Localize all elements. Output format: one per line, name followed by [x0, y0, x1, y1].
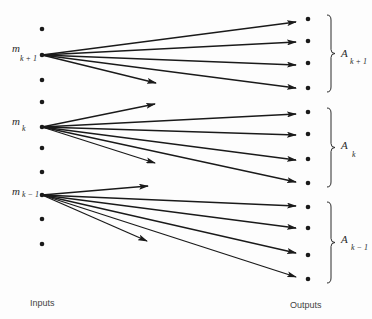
mapping-arrow — [42, 127, 296, 135]
label-A-k-minus-1: A — [341, 233, 348, 245]
label-m-k-minus-1-subscript: k − 1 — [22, 190, 39, 199]
diagram-graphics — [0, 0, 372, 319]
input-node — [40, 53, 45, 58]
output-node — [306, 17, 311, 22]
mapping-arrow — [42, 22, 296, 55]
inputs-caption: Inputs — [30, 298, 55, 308]
output-node — [306, 110, 311, 115]
output-node — [306, 181, 311, 186]
input-node — [40, 100, 45, 105]
output-node — [306, 39, 311, 44]
output-node — [306, 86, 311, 91]
input-node — [40, 78, 45, 83]
output-node — [306, 61, 311, 66]
output-node — [306, 157, 311, 162]
input-node — [40, 242, 45, 247]
output-node — [306, 277, 311, 282]
output-node — [306, 205, 311, 210]
mapping-arrow — [42, 186, 148, 195]
output-node — [306, 226, 311, 231]
label-m-k-minus-1: m — [12, 185, 20, 197]
input-nodes — [40, 27, 45, 247]
output-node — [306, 253, 311, 258]
label-m-k: m — [12, 115, 20, 127]
mapping-diagram: m k + 1 m k m k − 1 A k + 1 A k A k − 1 … — [0, 0, 372, 319]
input-node — [40, 27, 45, 32]
outputs-caption: Outputs — [290, 300, 322, 310]
input-node — [40, 146, 45, 151]
input-node — [40, 217, 45, 222]
label-A-k-plus-1-subscript: k + 1 — [350, 57, 367, 66]
label-m-k-subscript: k — [22, 124, 26, 133]
mapping-arrow — [42, 127, 155, 163]
label-A-k-plus-1: A — [341, 47, 348, 59]
group-braces — [327, 15, 335, 283]
output-nodes — [306, 17, 311, 282]
brace — [327, 15, 335, 92]
brace — [327, 108, 335, 187]
input-node — [40, 125, 45, 130]
brace — [327, 202, 335, 283]
label-m-k-plus-1-subscript: k + 1 — [20, 54, 37, 63]
label-A-k-subscript: k — [352, 150, 356, 159]
mapping-arrow — [42, 195, 296, 277]
output-node — [306, 132, 311, 137]
input-node — [40, 170, 45, 175]
label-A-k-minus-1-subscript: k − 1 — [351, 243, 368, 252]
label-A-k: A — [341, 139, 348, 151]
arrows — [42, 22, 296, 277]
mapping-arrow — [42, 42, 296, 55]
mapping-arrow — [42, 114, 296, 127]
input-node — [40, 193, 45, 198]
label-m-k-plus-1: m — [12, 42, 20, 54]
